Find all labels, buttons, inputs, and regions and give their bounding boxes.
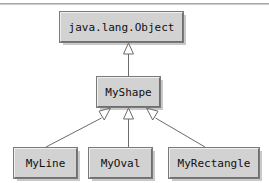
class-box-java-lang-object[interactable]: java.lang.Object bbox=[60, 12, 183, 42]
class-name-label: java.lang.Object bbox=[69, 21, 175, 32]
class-box-myline[interactable]: MyLine bbox=[14, 148, 77, 178]
class-name-label: MyRectangle bbox=[178, 157, 251, 168]
class-box-myrectangle[interactable]: MyRectangle bbox=[169, 148, 259, 178]
edge-line bbox=[156, 118, 206, 147]
edge-myoval-to-myshape bbox=[124, 108, 134, 147]
edge-line bbox=[46, 118, 102, 147]
edge-myrectangle-to-myshape bbox=[147, 108, 206, 147]
generalization-arrowhead bbox=[124, 108, 134, 119]
class-box-myshape[interactable]: MyShape bbox=[97, 77, 160, 107]
generalization-arrowhead bbox=[124, 43, 134, 54]
edge-myline-to-myshape bbox=[46, 108, 111, 147]
edge-myshape-to-object bbox=[124, 43, 134, 77]
uml-class-diagram: java.lang.Object MyShape MyLine MyOval M… bbox=[0, 0, 269, 183]
class-name-label: MyShape bbox=[105, 86, 151, 97]
class-name-label: MyLine bbox=[26, 157, 66, 168]
class-name-label: MyOval bbox=[101, 157, 141, 168]
class-box-myoval[interactable]: MyOval bbox=[89, 148, 152, 178]
